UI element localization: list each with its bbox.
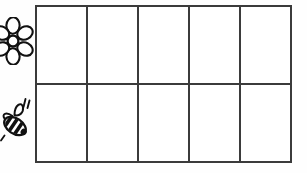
bee-stinger [1, 136, 5, 141]
grid-cell[interactable] [189, 84, 240, 162]
table-row [36, 6, 291, 84]
table-row [36, 84, 291, 162]
answer-grid [35, 5, 292, 163]
grid-cell[interactable] [87, 84, 138, 162]
grid-cell[interactable] [240, 84, 291, 162]
grid-cell[interactable] [138, 84, 189, 162]
grid-table [35, 5, 292, 163]
grid-cell[interactable] [189, 6, 240, 84]
flower-icon [0, 17, 34, 65]
grid-cell[interactable] [138, 6, 189, 84]
motion-lines [24, 99, 30, 108]
grid-cell[interactable] [87, 6, 138, 84]
grid-cell[interactable] [36, 84, 87, 162]
worksheet-canvas [0, 0, 307, 173]
grid-cell[interactable] [36, 6, 87, 84]
grid-cell[interactable] [240, 6, 291, 84]
bee-icon [0, 95, 34, 145]
bee-wing-upper [15, 104, 24, 115]
icon-column [0, 0, 35, 173]
